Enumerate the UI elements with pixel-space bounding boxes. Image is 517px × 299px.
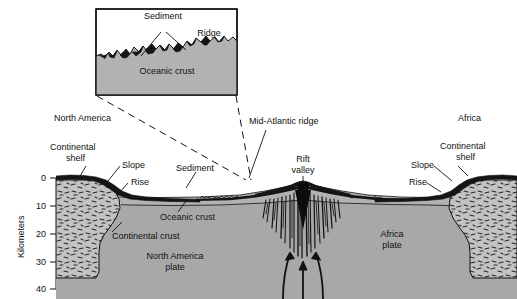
label-continental-shelf-left-line2: shelf (66, 153, 85, 163)
label-africa-plate-line2: plate (366, 240, 418, 250)
label-africa: Africa (458, 113, 481, 123)
label-rift-valley-line2: valley (277, 165, 329, 175)
axis-tick-30: 30 (24, 258, 46, 267)
inset-label-oceanic-crust: Oceanic crust (118, 66, 216, 76)
figure-canvas: Sediment Ridge Oceanic crust North Ameri… (0, 0, 517, 299)
label-continental-crust: Continental crust (112, 231, 180, 241)
label-continental-shelf-left-line1: Continental (50, 142, 96, 152)
axis-tick-20: 20 (24, 230, 46, 239)
inset-panel (96, 9, 237, 95)
label-mid-atlantic-ridge: Mid-Atlantic ridge (249, 116, 319, 126)
label-rift-valley-line1: Rift (277, 154, 329, 164)
axis-tick-40: 40 (24, 285, 46, 294)
label-slope-right: Slope (388, 160, 434, 170)
inset-connector-lines (97, 96, 251, 180)
label-continental-shelf-right-line1: Continental (440, 141, 486, 151)
label-continental-shelf-right-line2: shelf (456, 152, 475, 162)
label-rise-left: Rise (131, 177, 149, 187)
label-north-america-plate-line2: plate (132, 262, 218, 272)
label-slope-left: Slope (122, 160, 145, 170)
axis-tick-0: 0 (24, 174, 46, 183)
label-africa-plate-line1: Africa (366, 229, 418, 239)
axis-spine (50, 178, 56, 289)
axis-tick-10: 10 (24, 202, 46, 211)
label-rise-right: Rise (388, 177, 427, 187)
inset-label-sediment: Sediment (130, 11, 196, 21)
label-oceanic-crust: Oceanic crust (160, 212, 215, 222)
label-sediment: Sediment (176, 163, 214, 173)
inset-label-ridge: Ridge (185, 28, 233, 38)
label-north-america: North America (54, 113, 111, 123)
label-north-america-plate-line1: North America (132, 251, 218, 261)
